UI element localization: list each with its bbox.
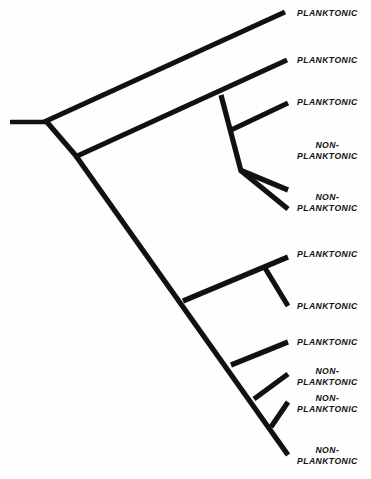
tip-label-8: PLANKTONIC — [297, 337, 358, 348]
branch-ladder-tip9 — [254, 374, 288, 399]
tip-label-3: PLANKTONIC — [297, 97, 358, 108]
tip-label-9: NON- PLANKTONIC — [297, 366, 358, 387]
tip-state-4-line2: PLANKTONIC — [297, 151, 358, 162]
branch-upper-clade-stem — [44, 12, 285, 122]
tip-state-4-line1: NON- — [297, 140, 358, 151]
tree-branches — [10, 12, 288, 455]
tip-label-6: PLANKTONIC — [297, 249, 358, 260]
tip-state-10-line1: NON- — [297, 393, 358, 404]
tip-state-11-line2: PLANKTONIC — [297, 456, 358, 467]
tip-state-6: PLANKTONIC — [297, 249, 358, 260]
tip-state-2: PLANKTONIC — [297, 55, 358, 66]
tip-state-7: PLANKTONIC — [297, 301, 358, 312]
branch-ladder-tip8 — [231, 342, 288, 365]
tip-state-8: PLANKTONIC — [297, 337, 358, 348]
tip-label-10: NON- PLANKTONIC — [297, 393, 358, 414]
tip-label-2: PLANKTONIC — [297, 55, 358, 66]
tip-label-5: NON- PLANKTONIC — [297, 192, 358, 213]
tip-state-1: PLANKTONIC — [297, 8, 358, 19]
branch-lower-clade-tip7 — [265, 268, 288, 306]
branch-main-backbone — [76, 156, 288, 455]
branch-ladder-tip10 — [271, 402, 288, 427]
cladogram-figure: PLANKTONIC PLANKTONIC PLANKTONIC NON- PL… — [0, 0, 371, 479]
branch-node1-connector — [46, 121, 77, 157]
tip-label-11: NON- PLANKTONIC — [297, 445, 358, 466]
tip-state-3: PLANKTONIC — [297, 97, 358, 108]
branch-upper-ladder-trunk-a — [221, 95, 241, 171]
tip-state-11-line1: NON- — [297, 445, 358, 456]
tip-state-10-line2: PLANKTONIC — [297, 404, 358, 415]
tip-state-5-line2: PLANKTONIC — [297, 203, 358, 214]
tip-label-1: PLANKTONIC — [297, 8, 358, 19]
branch-upper-ladder-tip3 — [229, 103, 288, 131]
tip-label-7: PLANKTONIC — [297, 301, 358, 312]
tip-state-9-line2: PLANKTONIC — [297, 377, 358, 388]
tip-state-9-line1: NON- — [297, 366, 358, 377]
tip-state-5-line1: NON- — [297, 192, 358, 203]
branch-clade-b-stem — [75, 60, 287, 157]
tip-label-4: NON- PLANKTONIC — [297, 140, 358, 161]
